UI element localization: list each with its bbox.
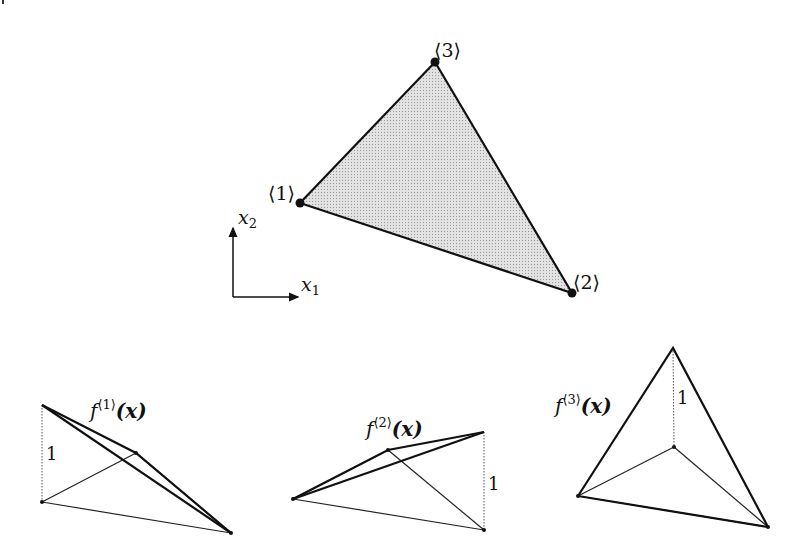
- corner-mark: [2, 0, 4, 4]
- finite-element-diagram: ⟨1⟩ ⟨2⟩ ⟨3⟩ x2 x1 1 f⟨1⟩(x) 1 f⟨2⟩(x): [0, 0, 805, 555]
- base-node: [672, 445, 676, 449]
- shape-function-1: 1 f⟨1⟩(x): [40, 397, 233, 535]
- base-edge: [388, 450, 484, 530]
- x1-axis-label: x1: [301, 273, 320, 298]
- surface-edge: [578, 496, 768, 527]
- base-node: [291, 497, 295, 501]
- height-label: 1: [677, 387, 688, 408]
- base-node: [386, 448, 390, 452]
- base-node: [134, 451, 138, 455]
- surface-edge: [42, 405, 231, 533]
- height-label: 1: [488, 473, 499, 494]
- height-line: [673, 348, 674, 447]
- node-2-label: ⟨2⟩: [573, 271, 600, 293]
- node-1: [296, 199, 305, 208]
- base-node: [482, 528, 486, 532]
- shape-function-2: 1 f⟨2⟩(x): [291, 415, 499, 532]
- x2-axis-label: x2: [238, 206, 257, 231]
- main-triangle: ⟨1⟩ ⟨2⟩ ⟨3⟩: [268, 39, 600, 298]
- base-node: [766, 525, 770, 529]
- height-label: 1: [46, 443, 57, 464]
- function-label: f⟨2⟩(x): [364, 415, 423, 441]
- node-3-label: ⟨3⟩: [434, 39, 461, 61]
- base-node: [576, 494, 580, 498]
- base-edge: [578, 447, 674, 496]
- shape-function-3: 1 f⟨3⟩(x): [553, 348, 770, 529]
- base-node: [40, 500, 44, 504]
- triangle-element: [300, 62, 572, 293]
- base-node: [229, 531, 233, 535]
- base-edge: [42, 502, 231, 533]
- surface-edge: [293, 432, 484, 499]
- function-label: f⟨3⟩(x): [553, 392, 612, 418]
- base-edge: [293, 499, 484, 530]
- node-1-label: ⟨1⟩: [268, 182, 295, 204]
- function-label: f⟨1⟩(x): [88, 397, 147, 423]
- coordinate-axes: x2 x1: [233, 206, 320, 298]
